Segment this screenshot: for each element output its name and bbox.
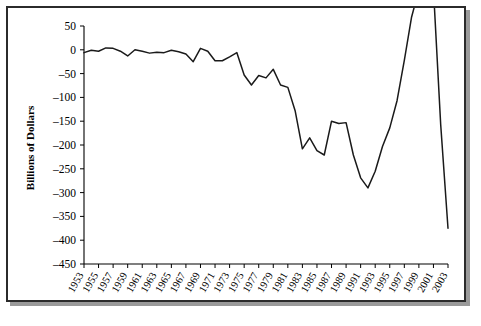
y-tick-label: –450	[52, 258, 76, 270]
y-tick-label: –250	[52, 163, 76, 175]
chart-frame: Billions of Dollars 500–50–100–150–200–2…	[6, 6, 466, 302]
y-tick-label: –100	[52, 91, 76, 103]
y-tick-label: –300	[52, 187, 76, 199]
y-axis-title-text: Billions of Dollars	[24, 105, 36, 190]
y-tick-label: 50	[65, 20, 77, 32]
x-tick-label: 2003	[430, 271, 450, 295]
y-tick-label: 0	[70, 44, 76, 56]
y-tick-label: –200	[52, 139, 76, 151]
y-tick-label: –150	[52, 115, 76, 127]
y-tick-label: –400	[52, 234, 76, 246]
budget-deficit-line-chart: Billions of Dollars 500–50–100–150–200–2…	[8, 8, 464, 300]
x-axis-ticks: 1953195519571959196119631965196719691971…	[66, 264, 450, 294]
deficit-data-line	[84, 8, 448, 228]
y-tick-label: –350	[52, 210, 76, 222]
y-axis-title: Billions of Dollars	[24, 105, 36, 190]
y-tick-label: –50	[58, 68, 77, 80]
y-axis-ticks: 500–50–100–150–200–250–300–350–400–450	[52, 20, 84, 270]
